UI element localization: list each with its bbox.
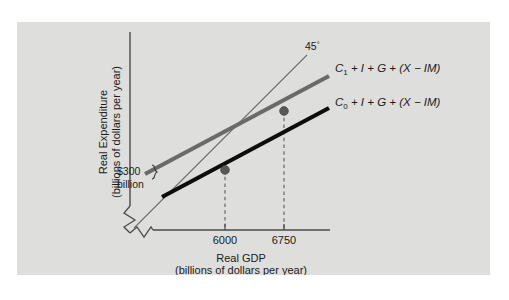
y-axis-break-mark <box>124 206 135 233</box>
y-axis-title-line2: (billions of dollars per year) <box>110 66 122 198</box>
x-tick-label-6750: 6750 <box>272 234 296 246</box>
forty-five-degree-label: 45° <box>305 40 320 52</box>
curve-c0-label: C0 + I + G + (X − IM) <box>335 96 441 111</box>
expenditure-chart: 45° C1 + I + G + (X − IM) C0 + I + G + (… <box>17 22 490 275</box>
x-axis-title-line2: (billions of dollars per year) <box>175 264 307 275</box>
curve-c1-label: C1 + I + G + (X − IM) <box>335 62 441 77</box>
x-tick-label-6000: 6000 <box>213 234 237 246</box>
forty-five-degree-line <box>134 55 307 228</box>
equilibrium-dot-initial <box>221 166 230 175</box>
y-axis-title-line1: Real Expenditure <box>97 90 109 174</box>
x-axis-break-mark <box>130 227 153 237</box>
equilibrium-dot-new <box>280 107 289 116</box>
figure-panel: 45° C1 + I + G + (X − IM) C0 + I + G + (… <box>17 22 490 275</box>
x-axis-title-line1: Real GDP <box>216 252 266 264</box>
